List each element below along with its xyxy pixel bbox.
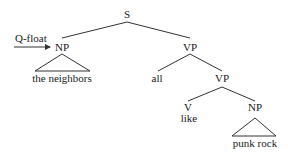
edge-s-np <box>62 22 127 38</box>
syntax-tree-diagram: S Q-float NP the neighbors VP all VP V l… <box>0 0 288 155</box>
np-subject-text: the neighbors <box>32 72 92 84</box>
node-quantifier: all <box>152 72 163 84</box>
q-float-label: Q-float <box>15 32 47 44</box>
v-text: like <box>181 112 198 124</box>
node-np-subject: NP <box>55 41 69 53</box>
edge-s-vp <box>127 22 190 38</box>
edge-vp-vp <box>190 54 222 71</box>
node-s: S <box>124 8 130 20</box>
edge-vp-all <box>158 54 190 71</box>
edge-vp-np <box>222 87 255 101</box>
node-vp-inner: VP <box>215 72 229 84</box>
node-np-object: NP <box>248 101 262 113</box>
node-vp-top: VP <box>183 41 197 53</box>
np-object-text: punk rock <box>233 137 278 149</box>
np-subject-triangle <box>35 54 90 71</box>
np-object-triangle <box>232 118 276 136</box>
edge-vp-v <box>188 87 222 101</box>
